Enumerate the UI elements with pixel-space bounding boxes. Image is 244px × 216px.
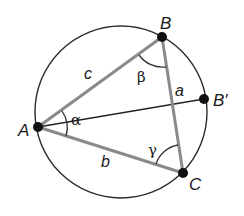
label-angle-gamma: γ [148, 141, 157, 159]
label-point-b: B [160, 14, 171, 33]
label-point-c: C [189, 175, 202, 194]
label-angle-alpha: α [71, 111, 81, 129]
label-angle-beta: β [137, 68, 146, 86]
point-bprime [199, 94, 209, 104]
point-c [178, 168, 188, 178]
point-b [157, 32, 167, 42]
side-b [38, 127, 183, 173]
label-point-bprime: B′ [213, 91, 228, 110]
label-side-b: b [101, 153, 110, 170]
angle-arc-beta [139, 55, 166, 67]
point-a [33, 122, 43, 132]
label-side-c: c [84, 65, 92, 82]
label-side-a: a [175, 82, 184, 99]
angle-arc-gamma [156, 145, 178, 164]
label-point-a: A [17, 121, 29, 140]
angle-arc-alpha [62, 111, 67, 136]
inscribed-triangle-diagram: A B C B′ c a b α β γ [0, 0, 244, 216]
